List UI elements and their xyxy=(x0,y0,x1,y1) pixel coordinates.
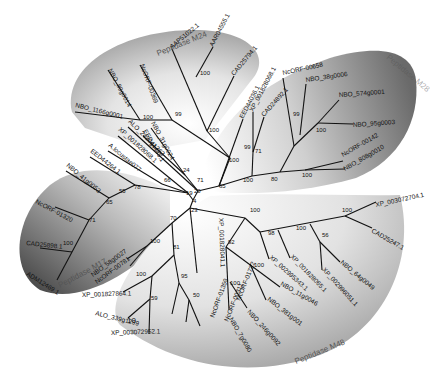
bootstrap-value: 65 xyxy=(106,199,113,205)
bootstrap-value: 19 xyxy=(186,190,193,196)
bootstrap-value: 100 xyxy=(254,262,265,268)
bootstrap-value: 99 xyxy=(293,111,300,117)
bootstrap-value: 100 xyxy=(63,240,74,246)
bootstrap-value: 100 xyxy=(150,238,161,244)
bootstrap-value: 100 xyxy=(209,127,220,133)
bootstrap-value: 100 xyxy=(143,114,154,120)
bootstrap-value: 24 xyxy=(183,167,190,173)
bootstrap-value: 80 xyxy=(271,176,278,182)
bootstrap-value: 23 xyxy=(191,207,198,213)
bootstrap-value: 20 xyxy=(194,188,201,194)
bootstrap-value: 100 xyxy=(316,127,327,133)
bootstrap-value: 92 xyxy=(228,239,235,245)
bootstrap-value: 100 xyxy=(296,225,307,231)
bootstrap-value: 100 xyxy=(302,172,313,178)
phylogenetic-tree: Peptidase M24 Peptidase M28 Peptidase M1… xyxy=(0,0,436,379)
bootstrap-value: 50 xyxy=(193,292,200,298)
bootstrap-value: 71 xyxy=(255,148,262,154)
bootstrap-value: 100 xyxy=(230,280,241,286)
bootstrap-value: 70 xyxy=(170,215,177,221)
bootstrap-value: 100 xyxy=(200,70,211,76)
bootstrap-value: 100 xyxy=(229,157,240,163)
bootstrap-value: 78 xyxy=(134,184,141,190)
bootstrap-value: 100 xyxy=(342,207,353,213)
bootstrap-value: 100 xyxy=(136,271,147,277)
bootstrap-value: 99 xyxy=(175,111,182,117)
bootstrap-value: 65 xyxy=(219,183,226,189)
bootstrap-value: 56 xyxy=(322,232,329,238)
bootstrap-value: 71 xyxy=(89,217,96,223)
bootstrap-value: 100 xyxy=(250,207,261,213)
bootstrap-value: 99 xyxy=(244,144,251,150)
bootstrap-value: 98 xyxy=(268,230,275,236)
bootstrap-value: 81 xyxy=(173,244,180,250)
bootstrap-value: 4 xyxy=(193,198,197,204)
bootstrap-value: 71 xyxy=(197,177,204,183)
bootstrap-value: 66 xyxy=(164,177,171,183)
scale-label: 10 xyxy=(127,316,136,325)
bootstrap-value: 59 xyxy=(151,295,158,301)
bootstrap-value: 95 xyxy=(181,273,188,279)
bootstrap-value: 100 xyxy=(243,177,254,183)
bootstrap-value: 55 xyxy=(119,188,126,194)
